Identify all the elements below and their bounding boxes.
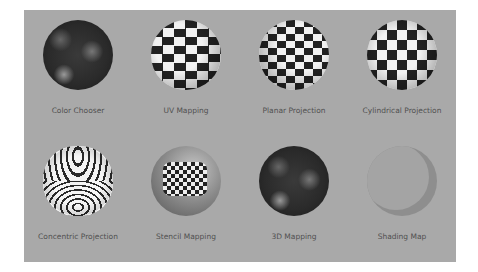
checker-sphere-icon bbox=[367, 20, 437, 90]
item-uv-mapping: UV Mapping bbox=[132, 10, 240, 136]
checker-sphere-icon bbox=[259, 20, 329, 90]
item-concentric-projection: Concentric Projection bbox=[24, 136, 132, 262]
mapping-examples-panel: Color Chooser UV Mapping Planar Projecti… bbox=[24, 10, 456, 262]
item-label: Shading Map bbox=[348, 232, 456, 241]
item-stencil-mapping: Stencil Mapping bbox=[132, 136, 240, 262]
item-3d-mapping: 3D Mapping bbox=[240, 136, 348, 262]
dark-sphere-icon bbox=[259, 146, 329, 216]
item-label: Color Chooser bbox=[24, 106, 132, 115]
dark-sphere-icon bbox=[43, 20, 113, 90]
item-color-chooser: Color Chooser bbox=[24, 10, 132, 136]
stencil-sphere-icon bbox=[151, 146, 221, 216]
shading-sphere-icon bbox=[367, 146, 437, 216]
item-planar-projection: Planar Projection bbox=[240, 10, 348, 136]
item-label: UV Mapping bbox=[132, 106, 240, 115]
item-label: Cylindrical Projection bbox=[348, 106, 456, 115]
item-label: Planar Projection bbox=[240, 106, 348, 115]
item-label: Stencil Mapping bbox=[132, 232, 240, 241]
item-shading-map: Shading Map bbox=[348, 136, 456, 262]
item-cylindrical-projection: Cylindrical Projection bbox=[348, 10, 456, 136]
item-label: 3D Mapping bbox=[240, 232, 348, 241]
concentric-sphere-icon bbox=[43, 146, 113, 216]
item-label: Concentric Projection bbox=[24, 232, 132, 241]
checker-sphere-icon bbox=[151, 20, 221, 90]
